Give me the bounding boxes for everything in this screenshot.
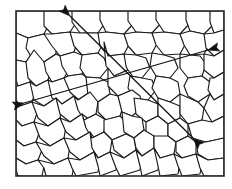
grain-structure-figure — [0, 0, 232, 189]
grain-boundary-network — [16, 11, 224, 176]
micrograph-canvas — [0, 0, 232, 189]
